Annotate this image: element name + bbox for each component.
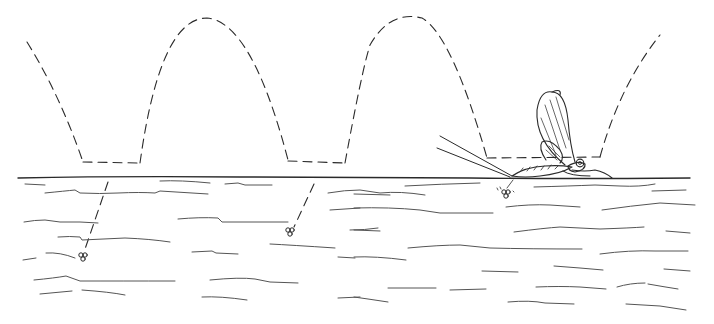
mayfly-icon xyxy=(437,91,612,178)
flight-path xyxy=(27,17,660,163)
egg-cluster-icon xyxy=(497,187,514,198)
mayfly-oviposition-illustration: Mayfly ovipositing on water surface xyxy=(0,0,714,324)
water-surface-line xyxy=(18,177,690,179)
egg-cluster-icon xyxy=(286,228,294,236)
egg-descent-paths xyxy=(84,180,513,252)
water-ripples xyxy=(23,181,695,310)
egg-cluster-icon xyxy=(79,253,87,261)
